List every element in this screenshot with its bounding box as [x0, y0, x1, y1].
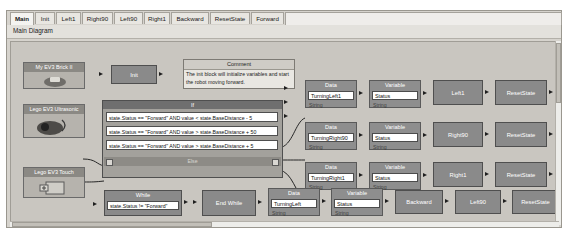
arrow-data1-to-var1 [359, 91, 363, 95]
tab-left90[interactable]: Left90 [114, 12, 143, 24]
end-while-block[interactable]: End While [202, 190, 256, 216]
data-block-3[interactable]: Data TurningRight1 String [305, 162, 357, 190]
action-block-left1[interactable]: Left1 [433, 80, 483, 105]
arrow-var-to-backward [385, 199, 389, 203]
while-condition[interactable]: state.Status != "Forward" [107, 201, 179, 210]
data-block-header: Data [306, 163, 356, 172]
if-header: If [103, 101, 282, 109]
arrow-brick-to-init [99, 72, 103, 76]
arrow-reset1-out [549, 90, 553, 94]
variable-block-type: String [373, 143, 387, 151]
tab-main[interactable]: Main [10, 12, 34, 25]
vertical-scroll-thumb[interactable] [556, 43, 561, 103]
app-root: Main Init Left1 Right90 Left90 Right1 Ba… [0, 0, 569, 236]
else-resize-handle[interactable] [272, 159, 279, 166]
device-touch-sensor[interactable]: Lego EV3 Touch [23, 167, 85, 198]
arrow-if-out-3 [284, 114, 288, 118]
while-block[interactable]: While state.Status != "Forward" [104, 190, 182, 216]
data-block-value[interactable]: TurningLeft [271, 199, 317, 208]
comment-text: The init block will initialize variables… [186, 71, 292, 86]
tab-backward[interactable]: Backward [171, 12, 209, 24]
tab-init[interactable]: Init [35, 12, 55, 24]
variable-block-type: String [373, 101, 387, 109]
diagram-window: Main Init Left1 Right90 Left90 Right1 Ba… [6, 10, 562, 228]
comment-title: Comment [184, 60, 294, 70]
arrow-backward-to-left90 [445, 199, 449, 203]
bottom-data-block[interactable]: Data TurningLeft String [268, 188, 320, 216]
tab-resetstate[interactable]: ResetState [210, 12, 250, 24]
arrow-endwhile-to-data [258, 200, 262, 204]
tab-bar: Main Init Left1 Right90 Left90 Right1 Ba… [7, 11, 561, 25]
device-label: Lego EV3 Ultrasonic [24, 105, 84, 114]
variable-block-value[interactable]: Status [372, 91, 418, 100]
data-block-value[interactable]: TurningLeft1 [308, 91, 354, 100]
reset-block-2[interactable]: ResetState [495, 122, 547, 147]
arrow-left90-to-reset [503, 199, 507, 203]
variable-block-header: Variable [370, 123, 420, 132]
touch-sensor-icon [24, 177, 84, 197]
diagram-canvas[interactable]: My EV3 Brick II Lego EV3 Ultrasonic Lego… [10, 41, 559, 225]
backward-block[interactable]: Backward [395, 190, 443, 214]
variable-block-header: Variable [370, 81, 420, 90]
vertical-scrollbar[interactable] [555, 41, 561, 225]
horizontal-scrollbar[interactable] [10, 221, 559, 227]
tab-empty-area [285, 12, 562, 25]
arrow-var1-to-left1 [423, 91, 427, 95]
else-bar[interactable]: Else [104, 157, 281, 166]
ultrasonic-sensor-icon [24, 114, 84, 137]
horizontal-scroll-thumb[interactable] [12, 222, 212, 227]
bottom-variable-block[interactable]: Variable Status String [331, 188, 383, 216]
arrow-right90-to-reset [485, 132, 489, 136]
tab-right90[interactable]: Right90 [82, 12, 113, 24]
comment-box[interactable]: Comment The init block will initialize v… [183, 59, 295, 89]
if-condition-2[interactable]: state.Status == "Forward" AND value > st… [106, 126, 278, 136]
arrow-init-out [159, 72, 163, 76]
if-block[interactable]: If state.Status == "Forward" AND value <… [102, 100, 283, 178]
arrow-reset2-out [549, 132, 553, 136]
else-add-handle[interactable] [106, 159, 113, 166]
action-block-right1[interactable]: Right1 [433, 162, 483, 187]
variable-block-2[interactable]: Variable Status String [369, 122, 421, 150]
if-condition-1[interactable]: state.Status == "Forward" AND value < st… [106, 112, 278, 122]
data-block-header: Data [306, 123, 356, 132]
tab-right1[interactable]: Right1 [144, 12, 170, 24]
data-block-2[interactable]: Data TurningRight90 String [305, 122, 357, 150]
if-condition-3[interactable]: state.Status == "Forward" AND value > st… [106, 140, 278, 150]
arrow-data3-to-var3 [359, 173, 363, 177]
device-ev3-brick[interactable]: My EV3 Brick II [23, 62, 85, 89]
variable-block-3[interactable]: Variable Status String [369, 162, 421, 190]
data-block-value[interactable]: TurningRight90 [308, 133, 354, 142]
arrow-var3-to-right1 [423, 173, 427, 177]
data-block-header: Data [306, 81, 356, 90]
device-ultrasonic-sensor[interactable]: Lego EV3 Ultrasonic [23, 104, 85, 138]
device-label: My EV3 Brick II [24, 63, 84, 72]
arrow-to-endwhile [193, 200, 197, 204]
arrow-reset3-out [549, 172, 553, 176]
variable-block-type: String [335, 209, 349, 217]
variable-block-value[interactable]: Status [334, 199, 380, 208]
subheader-bar: Main Diagram [7, 25, 561, 39]
reset-block-3[interactable]: ResetState [495, 162, 547, 187]
variable-block-value[interactable]: Status [372, 173, 418, 182]
bottom-reset-block[interactable]: ResetState [512, 190, 559, 214]
while-header: While [105, 191, 181, 200]
data-block-type: String [272, 209, 286, 217]
data-block-type: String [309, 101, 323, 109]
action-block-right90[interactable]: Right90 [433, 122, 483, 147]
variable-block-value[interactable]: Status [372, 133, 418, 142]
tab-left1[interactable]: Left1 [56, 12, 81, 24]
data-block-1[interactable]: Data TurningLeft1 String [305, 80, 357, 108]
left90-block[interactable]: Left90 [455, 190, 501, 214]
reset-block-1[interactable]: ResetState [495, 80, 547, 105]
arrow-if-out-2 [284, 100, 288, 104]
variable-block-header: Variable [370, 163, 420, 172]
arrow-if-out-1 [284, 86, 288, 90]
data-block-type: String [309, 143, 323, 151]
main-diagram-label: Main Diagram [13, 27, 53, 34]
tab-forward[interactable]: Forward [251, 12, 284, 24]
data-block-value[interactable]: TurningRight1 [308, 173, 354, 182]
ev3-brick-icon [24, 72, 84, 88]
variable-block-1[interactable]: Variable Status String [369, 80, 421, 108]
arrow-left1-to-reset [485, 90, 489, 94]
init-block[interactable]: Init [111, 65, 157, 84]
